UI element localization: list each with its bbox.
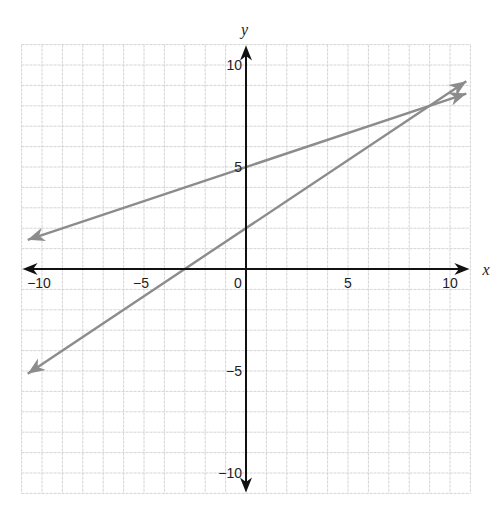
y-tick-label: −5 (226, 363, 242, 379)
y-tick-label: 10 (226, 57, 242, 73)
y-axis-label: y (239, 21, 249, 39)
x-tick-label: −10 (27, 275, 51, 291)
y-tick-label: 5 (234, 159, 242, 175)
x-tick-label: 5 (344, 275, 352, 291)
x-tick-label: 10 (442, 275, 458, 291)
coordinate-plane: −10−50510105−5−10xy (0, 0, 494, 526)
x-axis-label: x (481, 261, 489, 278)
axes (23, 46, 470, 493)
x-tick-label: −5 (133, 275, 149, 291)
y-tick-label: −10 (218, 465, 242, 481)
x-tick-label: 0 (234, 275, 242, 291)
